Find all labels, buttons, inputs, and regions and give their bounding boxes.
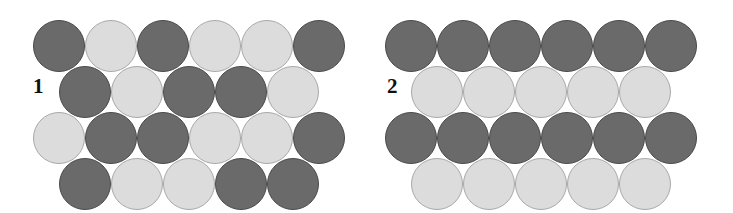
sphere-dark xyxy=(215,158,267,210)
sphere-light xyxy=(515,158,567,210)
sphere-light xyxy=(619,66,671,118)
panel-label-2: 2 xyxy=(387,76,398,97)
sphere-dark xyxy=(137,20,189,72)
sphere-light xyxy=(111,158,163,210)
sphere-light xyxy=(33,112,85,164)
sphere-dark xyxy=(59,66,111,118)
sphere-light xyxy=(411,158,463,210)
sphere-dark xyxy=(593,20,645,72)
sphere-light xyxy=(567,66,619,118)
figure-canvas: 12 xyxy=(0,0,733,213)
sphere-light xyxy=(111,66,163,118)
sphere-light xyxy=(463,66,515,118)
sphere-light xyxy=(163,158,215,210)
sphere-dark xyxy=(137,112,189,164)
sphere-light xyxy=(189,20,241,72)
sphere-dark xyxy=(215,66,267,118)
sphere-dark xyxy=(385,20,437,72)
sphere-light xyxy=(241,112,293,164)
sphere-packing-diagrams: 12 xyxy=(0,0,733,213)
sphere-dark xyxy=(267,158,319,210)
sphere-light xyxy=(241,20,293,72)
sphere-dark xyxy=(489,112,541,164)
sphere-dark xyxy=(645,112,697,164)
sphere-dark xyxy=(645,20,697,72)
sphere-dark xyxy=(541,112,593,164)
sphere-light xyxy=(515,66,567,118)
sphere-light xyxy=(567,158,619,210)
sphere-light xyxy=(463,158,515,210)
sphere-dark xyxy=(163,66,215,118)
sphere-dark xyxy=(293,20,345,72)
sphere-dark xyxy=(85,112,137,164)
sphere-light xyxy=(85,20,137,72)
sphere-dark xyxy=(59,158,111,210)
sphere-dark xyxy=(293,112,345,164)
sphere-dark xyxy=(437,20,489,72)
sphere-light xyxy=(619,158,671,210)
sphere-dark xyxy=(385,112,437,164)
sphere-light xyxy=(189,112,241,164)
sphere-dark xyxy=(489,20,541,72)
sphere-light xyxy=(411,66,463,118)
sphere-light xyxy=(267,66,319,118)
sphere-dark xyxy=(541,20,593,72)
sphere-dark xyxy=(33,20,85,72)
sphere-dark xyxy=(437,112,489,164)
panel-label-1: 1 xyxy=(33,76,44,97)
sphere-dark xyxy=(593,112,645,164)
